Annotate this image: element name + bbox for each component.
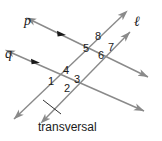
transversal-caption: transversal: [38, 121, 97, 133]
parallel-mark-q-icon: [31, 59, 40, 64]
line-p: [33, 21, 148, 77]
angle-label-1: 1: [48, 76, 54, 87]
parallel-mark-p-icon: [57, 31, 66, 37]
angle-label-7: 7: [108, 42, 114, 53]
label-line-p: p: [24, 14, 31, 28]
angle-label-2: 2: [64, 83, 70, 94]
geometry-figure: p q ℓ 8 5 7 6 4 1 3 2 transversal: [0, 0, 162, 141]
label-line-l: ℓ: [134, 15, 140, 29]
line-p-segment: [33, 21, 148, 77]
label-line-q: q: [5, 47, 12, 61]
angle-label-6: 6: [98, 50, 104, 61]
angle-label-4: 4: [63, 65, 69, 76]
angle-label-8: 8: [95, 31, 101, 42]
angle-label-3: 3: [74, 74, 80, 85]
angle-label-5: 5: [83, 43, 89, 54]
